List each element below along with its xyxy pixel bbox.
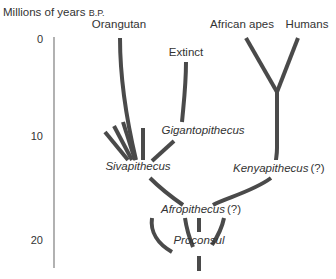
branch-kenya-afro	[213, 178, 271, 205]
branch-procon-1	[152, 218, 172, 252]
branch-gigantopithecus	[152, 141, 174, 161]
label-orangutan: Orangutan	[92, 18, 146, 30]
label-proconsul: Proconsul	[173, 234, 225, 246]
tick-0: 0	[37, 33, 43, 45]
phylogeny-diagram: Millions of years B.P. 0 10 20 Orangutan…	[0, 0, 336, 279]
branch-siva-afro	[150, 178, 183, 205]
branch-extinct	[182, 62, 186, 122]
label-afropithecus: Afropithecus(?)	[160, 203, 241, 215]
axis-title: Millions of years B.P.	[3, 6, 105, 18]
label-gigantopithecus: Gigantopithecus	[161, 124, 244, 136]
branch-humans	[277, 38, 298, 92]
label-sivapithecus: Sivapithecus	[105, 160, 170, 172]
tick-10: 10	[31, 130, 43, 142]
branch-hominid-stem	[276, 92, 277, 160]
label-extinct: Extinct	[169, 46, 204, 58]
branch-african-apes	[246, 38, 277, 92]
tick-20: 20	[31, 234, 43, 246]
label-african-apes: African apes	[210, 18, 274, 30]
label-kenyapithecus: Kenyapithecus(?)	[233, 162, 325, 174]
label-humans: Humans	[286, 18, 329, 30]
